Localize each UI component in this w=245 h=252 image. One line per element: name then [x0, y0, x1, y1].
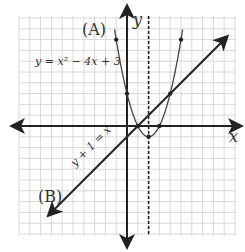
x-axis-label: x — [229, 127, 238, 146]
label-b: (B) — [38, 187, 62, 206]
equation-a: y = x² − 4x + 3 — [35, 55, 121, 68]
graph-figure: (A) y = x² − 4x + 3 (B) y + 1 = x x y — [0, 0, 245, 252]
y-axis-label: y — [133, 10, 142, 29]
coordinate-plane — [0, 0, 245, 252]
label-a: (A) — [82, 20, 106, 39]
